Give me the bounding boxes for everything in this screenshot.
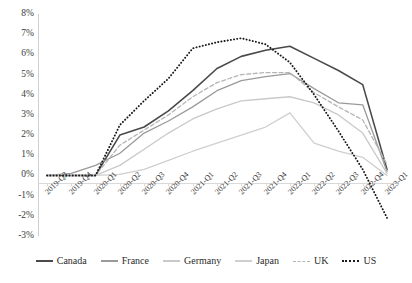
y-axis-tick-label: 4% [2, 90, 34, 100]
y-axis-tick-label: -3% [2, 231, 34, 241]
series-line-canada [47, 46, 387, 175]
x-axis-tick [387, 183, 388, 186]
legend-item-canada[interactable]: Canada [36, 256, 87, 266]
x-axis-tick [47, 183, 48, 186]
x-axis-tick [144, 183, 145, 186]
legend-swatch-icon [163, 260, 180, 262]
x-axis-tick [363, 183, 364, 186]
legend-swatch-icon [101, 260, 118, 262]
x-axis-tick [266, 183, 267, 186]
legend-item-uk[interactable]: UK [293, 256, 328, 266]
y-axis-tick-label: 8% [2, 9, 34, 19]
y-axis-tick-label: 7% [2, 29, 34, 39]
legend-label: US [363, 256, 376, 266]
plot-area [38, 14, 396, 184]
legend-label: France [122, 256, 149, 266]
x-axis-tick [338, 183, 339, 186]
legend-label: Canada [57, 256, 87, 266]
y-axis-tick-label: 6% [2, 49, 34, 59]
series-container [38, 14, 396, 236]
y-axis-tick-label: 0% [2, 170, 34, 180]
x-axis-tick [241, 183, 242, 186]
chart-legend: CanadaFranceGermanyJapanUKUS [0, 250, 412, 272]
legend-label: Germany [184, 256, 221, 266]
series-line-uk [47, 73, 387, 176]
y-axis-tick-label: -1% [2, 191, 34, 201]
legend-swatch-icon [342, 260, 359, 262]
x-axis-tick [71, 183, 72, 186]
legend-item-france[interactable]: France [101, 256, 149, 266]
y-axis-tick-label: 3% [2, 110, 34, 120]
legend-swatch-icon [235, 260, 252, 262]
y-axis-tick-label: 5% [2, 70, 34, 80]
x-axis-tick [193, 183, 194, 186]
series-line-japan [47, 113, 387, 176]
legend-swatch-icon [293, 261, 310, 262]
y-axis-tick-label: 2% [2, 130, 34, 140]
legend-item-us[interactable]: US [342, 256, 376, 266]
x-axis-tick [168, 183, 169, 186]
legend-swatch-icon [36, 260, 53, 262]
legend-item-germany[interactable]: Germany [163, 256, 221, 266]
x-axis-tick [290, 183, 291, 186]
x-axis-tick [217, 183, 218, 186]
series-line-france [47, 74, 387, 176]
line-chart: 8%7%6%5%4%3%2%1%0%-1%-2%-3% 2019-Q32019-… [0, 0, 412, 283]
y-axis-tick-label: 1% [2, 150, 34, 160]
x-axis-tick [120, 183, 121, 186]
legend-item-japan[interactable]: Japan [235, 256, 279, 266]
x-axis-tick [314, 183, 315, 186]
x-axis-tick [96, 183, 97, 186]
legend-label: UK [314, 256, 328, 266]
legend-label: Japan [256, 256, 279, 266]
y-axis-tick-label: -2% [2, 211, 34, 221]
y-axis-labels: 8%7%6%5%4%3%2%1%0%-1%-2%-3% [0, 0, 34, 283]
